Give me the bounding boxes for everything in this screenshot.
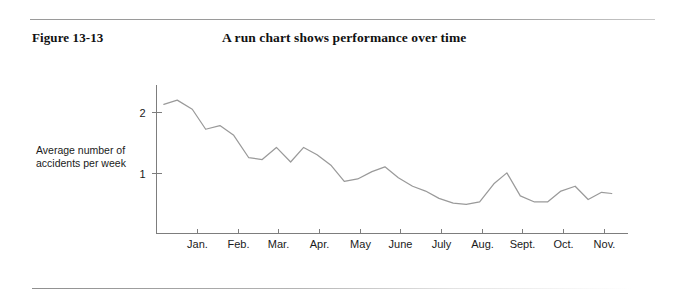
x-tick-label: Jan.	[187, 238, 208, 250]
footer-rule	[32, 288, 632, 289]
x-tick-label: Oct.	[553, 238, 573, 250]
x-tick-label: Nov.	[594, 238, 616, 250]
x-tick-label: Sept.	[510, 238, 536, 250]
x-tick-group	[198, 229, 605, 234]
x-axis	[157, 229, 629, 234]
x-tick-label: July	[432, 238, 452, 250]
x-tick-label: Feb.	[227, 238, 249, 250]
y-tick-label: 2	[139, 107, 145, 119]
x-tick-labels: Jan.Feb.Mar.Apr.MayJuneJulyAug.Sept.Oct.…	[187, 238, 615, 250]
x-tick-label: Apr.	[310, 238, 330, 250]
x-tick-label: May	[350, 238, 371, 250]
x-tick-label: Aug.	[471, 238, 494, 250]
data-series-line	[164, 100, 612, 204]
y-axis	[152, 85, 162, 234]
figure-page: Figure 13-13 A run chart shows performan…	[0, 0, 675, 294]
x-tick-label: June	[389, 238, 413, 250]
x-tick-label: Mar.	[268, 238, 289, 250]
y-axis-title: Average number of accidents per week	[36, 144, 146, 170]
